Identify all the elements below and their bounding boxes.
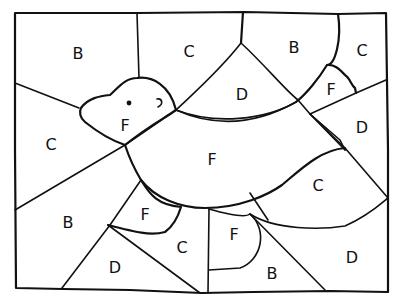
region-label: D [236,87,248,103]
region-label: B [63,215,74,231]
region-label: D [346,250,358,266]
region-label: C [356,43,367,59]
line-art [0,0,398,304]
region-label: F [140,207,149,223]
bird-beak [157,99,162,107]
coloring-page: B C B C D F F C D F C B F C F D B D [0,0,398,304]
region-label: C [183,44,194,60]
region-label: F [120,118,129,134]
region-label: C [45,137,56,153]
region-label: F [207,152,216,168]
region-label: C [176,240,187,256]
region-label: F [326,82,335,98]
region-label: B [289,40,300,56]
region-label: D [109,260,121,276]
region-label: D [356,120,368,136]
region-label: B [267,266,278,282]
region-label: F [229,227,238,243]
region-label: B [73,46,84,62]
border [15,12,388,293]
bird-eye [127,101,132,106]
region-label: C [312,178,323,194]
